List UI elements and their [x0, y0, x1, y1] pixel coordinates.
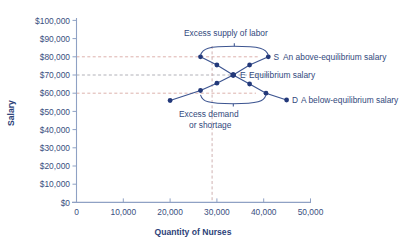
y-tick-label: $0 — [61, 198, 71, 208]
excess-demand-bracket — [201, 95, 267, 104]
equilibrium-marker-label: E — [240, 70, 246, 80]
y-axis-tick-labels: $0 $10,000 $20,000 $30,000 $40,000 $50,0… — [35, 16, 70, 208]
demand-data-point — [215, 63, 220, 68]
x-tick-label: 50,000 — [298, 207, 324, 217]
y-tick-label: $10,000 — [40, 179, 71, 189]
excess-demand-label-line2: or shortage — [189, 120, 232, 130]
y-tick-label: $30,000 — [40, 143, 71, 153]
y-tick-label: $100,000 — [35, 16, 70, 26]
demand-data-point — [284, 98, 289, 103]
supply-series-description: An above-equilibrium salary — [283, 52, 387, 62]
excess-supply-label: Excess supply of labor — [184, 28, 268, 38]
y-tick-label: $50,000 — [40, 107, 71, 117]
equilibrium-description: Equilibrium salary — [249, 70, 316, 80]
x-tick-label: 40,000 — [251, 207, 277, 217]
supply-data-point — [215, 81, 220, 86]
demand-series-description: A below-equilibrium salary — [301, 95, 399, 105]
y-tick-label: $90,000 — [40, 34, 71, 44]
excess-demand-label-line1: Excess demand — [179, 109, 239, 119]
supply-data-point — [198, 88, 203, 93]
x-axis-tick-marks — [77, 198, 311, 202]
y-tick-label: $60,000 — [40, 88, 71, 98]
supply-data-point — [168, 98, 173, 103]
y-tick-label: $40,000 — [40, 125, 71, 135]
x-tick-label: 0 — [74, 207, 79, 217]
supply-demand-chart: $0 $10,000 $20,000 $30,000 $40,000 $50,0… — [0, 0, 413, 246]
equilibrium-point — [231, 72, 236, 77]
supply-series-marker-label: S — [274, 52, 280, 62]
x-axis-title: Quantity of Nurses — [155, 227, 232, 237]
demand-data-point — [247, 82, 252, 87]
x-tick-label: 10,000 — [110, 207, 136, 217]
demand-series-marker-label: D — [292, 95, 298, 105]
y-tick-label: $20,000 — [40, 161, 71, 171]
chart-canvas: $0 $10,000 $20,000 $30,000 $40,000 $50,0… — [0, 0, 413, 246]
supply-data-point — [247, 63, 252, 68]
y-axis-title: Salary — [6, 100, 16, 126]
x-axis-tick-labels: 0 10,000 20,000 30,000 40,000 50,000 — [74, 207, 323, 217]
x-tick-label: 30,000 — [204, 207, 230, 217]
x-tick-label: 20,000 — [157, 207, 183, 217]
y-tick-label: $80,000 — [40, 52, 71, 62]
y-axis-tick-marks — [73, 20, 77, 202]
excess-supply-bracket — [201, 46, 269, 55]
y-tick-label: $70,000 — [40, 70, 71, 80]
